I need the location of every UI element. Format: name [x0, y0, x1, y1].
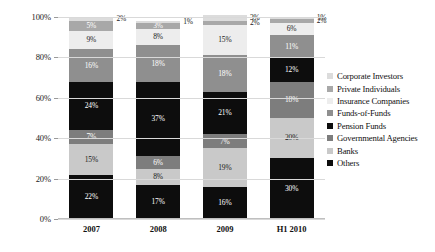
bar-segment[interactable]: 8% — [136, 29, 180, 45]
y-axis-label: 80% — [36, 52, 51, 62]
legend-item[interactable]: Corporate Investors — [327, 70, 435, 82]
bar-stack: 22%15%7%24%16%9%5%2% — [69, 17, 113, 219]
bar-segment-value-label: 18% — [218, 70, 231, 78]
gridline — [58, 219, 325, 220]
bar-segment[interactable]: 18% — [270, 82, 314, 118]
y-axis-tick — [54, 57, 58, 58]
bar-segment[interactable]: 9% — [69, 31, 113, 49]
legend-item[interactable]: Private Individuals — [327, 82, 435, 94]
bar-segment[interactable]: 11% — [270, 35, 314, 57]
bar-segment[interactable]: 2% — [270, 19, 314, 23]
bar-segment-value-label: 6% — [153, 159, 163, 167]
legend-swatch-icon — [327, 135, 333, 141]
bar-segment-value-label: 11% — [285, 43, 298, 51]
bar-segment[interactable]: 24% — [69, 82, 113, 130]
stacked-bar-chart: 0%20%40%60%80%100% 22%15%7%24%16%9%5%2%1… — [0, 0, 435, 252]
bar-segment-value-label: 18% — [152, 60, 165, 68]
gridline — [58, 179, 325, 180]
legend-label: Banks — [337, 146, 358, 156]
bar-group[interactable]: 17%8%6%37%18%8%3%1% — [136, 17, 180, 219]
bar-segment-value-label: 12% — [285, 66, 298, 74]
bar-segment[interactable]: 6% — [270, 23, 314, 35]
legend-label: Governmental Agencies — [337, 133, 418, 143]
legend-label: Others — [337, 158, 359, 168]
bar-segment[interactable]: 3% — [203, 15, 247, 21]
y-axis: 0%20%40%60%80%100% — [0, 0, 58, 252]
bar-segment[interactable]: 16% — [69, 49, 113, 81]
bar-group[interactable]: 22%15%7%24%16%9%5%2% — [69, 17, 113, 219]
bar-segment[interactable]: 6% — [136, 156, 180, 168]
bar-segment[interactable]: 18% — [203, 55, 247, 91]
bar-segment-value-label: 17% — [152, 198, 165, 206]
legend-swatch-icon — [327, 98, 333, 104]
bar-group[interactable]: 30%20%18%12%11%6%2%1% — [270, 17, 314, 219]
bar-segment[interactable]: 8% — [136, 169, 180, 185]
legend-item[interactable]: Pension Funds — [327, 120, 435, 132]
y-axis-label: 20% — [36, 174, 51, 184]
y-axis-tick — [54, 179, 58, 180]
gridline — [58, 57, 325, 58]
y-axis-label: 0% — [40, 214, 51, 224]
bar-segment[interactable]: 17% — [136, 185, 180, 219]
legend-swatch-icon — [327, 123, 333, 129]
bar-segment[interactable]: 18% — [136, 45, 180, 81]
legend-swatch-icon — [327, 86, 333, 92]
bar-segment[interactable]: 3% — [136, 23, 180, 29]
bar-segment-value-label: 6% — [287, 25, 297, 33]
bar-segment[interactable]: 22% — [69, 175, 113, 219]
bar-segment[interactable]: 37% — [136, 82, 180, 157]
bar-segment-value-label: 21% — [218, 109, 231, 117]
bar-segment-value-label: 5% — [87, 22, 97, 30]
bar-segment-value-label: 16% — [218, 199, 231, 207]
bar-segment[interactable]: 12% — [270, 57, 314, 81]
bar-segment[interactable]: 1% — [136, 21, 180, 23]
legend: Corporate InvestorsPrivate IndividualsIn… — [327, 70, 435, 169]
y-axis-tick — [54, 138, 58, 139]
bar-segment-value-label: 30% — [285, 185, 298, 193]
legend-swatch-icon — [327, 148, 333, 154]
bar-segment[interactable]: 7% — [203, 134, 247, 148]
x-axis-label: 2007 — [56, 224, 126, 234]
bar-segment-value-label: 16% — [85, 62, 98, 70]
y-axis-tick — [54, 98, 58, 99]
y-axis-tick — [54, 17, 58, 18]
legend-label: Funds-of-Funds — [337, 108, 390, 118]
x-axis-label: H1 2010 — [257, 224, 327, 234]
bar-stack: 30%20%18%12%11%6%2%1% — [270, 17, 314, 219]
bar-segment[interactable]: 5% — [69, 21, 113, 31]
bar-segment[interactable]: 15% — [69, 144, 113, 174]
bar-segment[interactable]: 2% — [203, 21, 247, 25]
bar-segment-value-label: 8% — [153, 33, 163, 41]
bar-segment[interactable]: 15% — [203, 25, 247, 55]
legend-label: Corporate Investors — [337, 71, 403, 81]
legend-swatch-icon — [327, 73, 333, 79]
bar-segment-value-label: 3% — [153, 22, 163, 30]
bar-segment-value-label: 3% — [250, 14, 260, 22]
legend-label: Pension Funds — [337, 121, 386, 131]
bar-stack: 17%8%6%37%18%8%3%1% — [136, 17, 180, 219]
x-axis-label: 2008 — [123, 224, 193, 234]
legend-item[interactable]: Banks — [327, 144, 435, 156]
bar-segment-value-label: 15% — [85, 156, 98, 164]
legend-label: Private Individuals — [337, 84, 400, 94]
legend-item[interactable]: Funds-of-Funds — [327, 107, 435, 119]
bar-stack: 16%19%7%21%18%15%2%3% — [203, 17, 247, 219]
legend-item[interactable]: Others — [327, 157, 435, 169]
gridline — [58, 98, 325, 99]
bar-segment-value-label: 37% — [152, 115, 165, 123]
x-axis-label: 2009 — [190, 224, 260, 234]
legend-item[interactable]: Insurance Companies — [327, 95, 435, 107]
gridline — [58, 17, 325, 18]
bar-segment-value-label: 15% — [218, 36, 231, 44]
y-axis-tick — [54, 219, 58, 220]
bar-segment[interactable]: 30% — [270, 158, 314, 219]
plot-area: 22%15%7%24%16%9%5%2%17%8%6%37%18%8%3%1%1… — [58, 17, 325, 219]
legend-swatch-icon — [327, 160, 333, 166]
bar-group[interactable]: 16%19%7%21%18%15%2%3% — [203, 17, 247, 219]
gridline — [58, 138, 325, 139]
legend-label: Insurance Companies — [337, 96, 409, 106]
legend-item[interactable]: Governmental Agencies — [327, 132, 435, 144]
bar-segment-value-label: 24% — [85, 102, 98, 110]
bar-segment[interactable]: 16% — [203, 187, 247, 219]
bar-segment[interactable]: 19% — [203, 148, 247, 186]
